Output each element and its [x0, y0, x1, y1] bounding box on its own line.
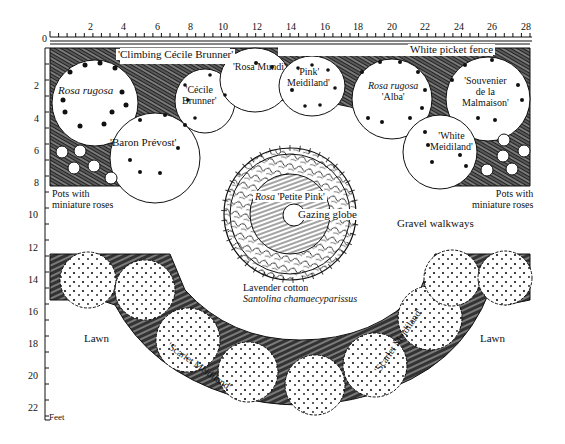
label-rosa-rugosa: Rosa rugosa — [58, 85, 113, 96]
label-pink-meidiland: 'Pink' Meidiland' — [287, 66, 330, 88]
label-lavender-line2: Santolina chamaecyparissus — [243, 293, 357, 304]
label-souvenir-line1: 'Souvenier — [462, 75, 509, 86]
label-rosa-rugosa-alba: Rosa rugosa 'Alba' — [368, 80, 418, 102]
x-tick-12: 12 — [252, 21, 262, 32]
x-tick-18: 18 — [353, 21, 363, 32]
y-tick-20: 20 — [28, 370, 38, 381]
label-lavender-line1: Lavender cotton — [243, 282, 357, 293]
x-tick-2: 2 — [88, 21, 93, 32]
label-baron-prevost: 'Baron Prévost' — [110, 137, 177, 148]
label-white-meidiland: 'White Meidiland' — [430, 130, 473, 152]
x-tick-20: 20 — [387, 21, 397, 32]
y-tick-14: 14 — [28, 274, 38, 285]
y-tick-8: 8 — [34, 177, 39, 188]
label-petite-italic: Rosa — [255, 191, 275, 202]
label-cecile-line1: 'Cécile — [182, 84, 217, 95]
label-rosa-mundi: 'Rosa Mundi' — [233, 61, 286, 72]
x-tick-10: 10 — [218, 21, 228, 32]
left-ruler — [45, 48, 50, 420]
y-tick-18: 18 — [28, 338, 38, 349]
label-white-picket-fence: White picket fence — [408, 44, 495, 55]
label-white-line2: Meidiland' — [430, 141, 473, 152]
x-tick-16: 16 — [320, 21, 330, 32]
label-gravel-walkways: Gravel walkways — [397, 218, 474, 229]
label-white-line1: 'White — [430, 130, 473, 141]
label-pots-right-line1: Pots with — [472, 188, 533, 199]
x-tick-6: 6 — [155, 21, 160, 32]
label-lawn-right: Lawn — [480, 333, 505, 344]
y-tick-4: 4 — [34, 113, 39, 124]
label-petite-rest: 'Petite Pink' — [275, 191, 325, 202]
label-pots-right: Pots with miniature roses — [472, 188, 533, 210]
label-rugosa-alba-line1: Rosa rugosa — [368, 80, 418, 91]
x-tick-8: 8 — [188, 21, 193, 32]
x-tick-26: 26 — [487, 21, 497, 32]
label-pots-left-line2: miniature roses — [52, 199, 113, 210]
y-tick-12: 12 — [28, 242, 38, 253]
label-lawn-left: Lawn — [84, 333, 109, 344]
label-souvenir-line2: de la — [462, 86, 509, 97]
x-tick-0: 0 — [42, 33, 47, 44]
label-pink-line1: 'Pink' — [287, 66, 330, 77]
label-pots-left-line1: Pots with — [52, 188, 113, 199]
y-tick-10: 10 — [28, 209, 38, 220]
x-tick-4: 4 — [121, 21, 126, 32]
top-ruler — [50, 31, 532, 41]
y-tick-2: 2 — [34, 80, 39, 91]
shrub-white-meidiland — [403, 115, 477, 189]
x-tick-22: 22 — [420, 21, 430, 32]
x-tick-28: 28 — [521, 21, 531, 32]
units-label: Feet — [49, 412, 65, 422]
label-pots-right-line2: miniature roses — [472, 199, 533, 210]
label-climbing-cecile-brunner: 'Climbing Cécile Brunner' — [116, 49, 235, 60]
label-cecile-line2: Brunner' — [182, 95, 217, 106]
label-pots-left: Pots with miniature roses — [52, 188, 113, 210]
label-pink-line2: Meidiland' — [287, 77, 330, 88]
label-souvenir-line3: Malmaison' — [462, 97, 509, 108]
x-tick-14: 14 — [286, 21, 296, 32]
y-tick-6: 6 — [34, 145, 39, 156]
label-rugosa-alba-line2: 'Alba' — [368, 91, 418, 102]
label-souvenir-de-la-malmaison: 'Souvenier de la Malmaison' — [462, 75, 509, 108]
label-gazing-globe: Gazing globe — [296, 209, 359, 220]
x-tick-24: 24 — [454, 21, 464, 32]
y-tick-16: 16 — [28, 306, 38, 317]
y-tick-22: 22 — [28, 402, 38, 413]
label-rosa-petite-pink: Rosa 'Petite Pink' — [253, 191, 327, 202]
label-cecile-brunner: 'Cécile Brunner' — [182, 84, 217, 106]
label-lavender-cotton: Lavender cotton Santolina chamaecypariss… — [243, 282, 357, 304]
